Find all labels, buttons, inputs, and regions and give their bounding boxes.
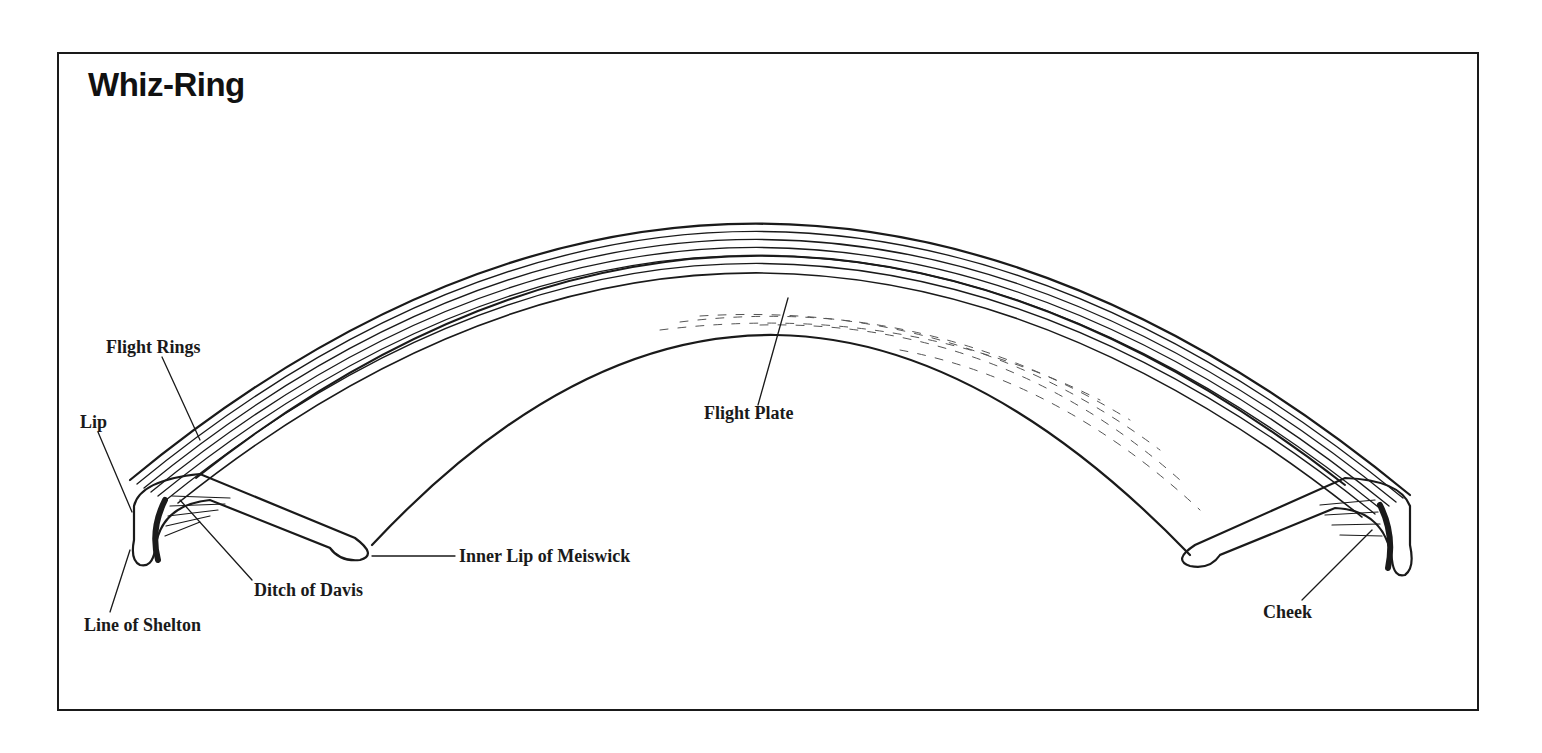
right-cross-section [1182,478,1412,575]
label-line-of-shelton: Line of Shelton [84,615,201,636]
flight-plate-inner-edge [372,335,1190,555]
label-ditch-of-davis: Ditch of Davis [254,580,363,601]
whiz-ring-illustration [0,0,1542,753]
leader-lines [98,298,1372,612]
label-cheek: Cheek [1263,602,1312,623]
label-flight-rings: Flight Rings [106,337,201,358]
label-lip: Lip [80,412,107,433]
flight-rings-lines [130,224,1410,517]
label-flight-plate: Flight Plate [704,403,793,424]
label-inner-lip-of-meiswick: Inner Lip of Meiswick [459,546,630,567]
